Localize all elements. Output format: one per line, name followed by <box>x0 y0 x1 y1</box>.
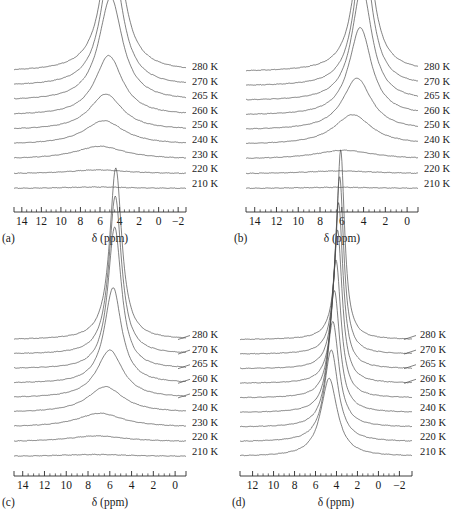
temperature-label: 280 K <box>192 61 218 72</box>
spectrum-trace <box>14 170 186 174</box>
x-tick-label: 4 <box>361 215 367 227</box>
spectrum-trace <box>246 78 418 129</box>
x-tick-label: 12 <box>39 479 51 491</box>
spectrum-trace <box>14 146 186 158</box>
spectrum-trace <box>14 187 186 189</box>
panel-tag: (a) <box>2 232 15 244</box>
panel-c: 14121086420δ (ppm)(c)280 K270 K265 K260 … <box>0 260 230 522</box>
spectrum-trace <box>246 0 418 85</box>
x-tick-label: 8 <box>78 215 84 227</box>
spectrum-trace <box>14 94 186 128</box>
temperature-label: 270 K <box>420 344 446 355</box>
spectrum-trace <box>240 291 412 413</box>
temperature-label: 250 K <box>192 387 218 398</box>
x-axis-title: δ (ppm) <box>318 496 354 508</box>
temperature-label: 265 K <box>192 358 218 369</box>
x-tick-label: 2 <box>136 215 142 227</box>
panel-tag: (d) <box>232 496 245 508</box>
temperature-label: 220 K <box>192 431 218 442</box>
x-tick-label: 10 <box>293 215 305 227</box>
temperature-label: 270 K <box>192 76 218 87</box>
x-tick-label: 2 <box>150 479 156 491</box>
x-tick-label: 10 <box>268 479 280 491</box>
temperature-label: 280 K <box>192 329 218 340</box>
spectrum-trace <box>246 0 418 71</box>
temperature-label: 210 K <box>420 446 446 457</box>
temperature-label: 265 K <box>420 358 446 369</box>
temperature-label: 270 K <box>424 76 450 87</box>
x-tick-label: 10 <box>61 479 73 491</box>
temperature-label: 265 K <box>424 90 450 101</box>
panel-tag: (b) <box>234 232 247 244</box>
temperature-label: 220 K <box>420 431 446 442</box>
x-tick-label: 12 <box>36 215 48 227</box>
temperature-label: 230 K <box>424 149 450 160</box>
panel-b: 14121086420δ (ppm)(b)280 K270 K265 K260 … <box>230 0 461 260</box>
x-tick-label: 8 <box>85 479 91 491</box>
x-axis-title: δ (ppm) <box>92 496 128 508</box>
x-tick-label: 12 <box>271 215 283 227</box>
x-tick-label: 6 <box>313 479 319 491</box>
x-tick-label: 14 <box>249 215 261 227</box>
temperature-label: 240 K <box>192 402 218 413</box>
temperature-label: 240 K <box>424 134 450 145</box>
spectrum-trace <box>14 350 186 397</box>
spectrum-trace <box>246 0 418 100</box>
temperature-label: 260 K <box>424 105 450 116</box>
x-tick-label: 12 <box>247 479 259 491</box>
temperature-label: 280 K <box>420 329 446 340</box>
spectrum-trace <box>14 0 186 84</box>
temperature-label: 210 K <box>192 446 218 457</box>
spectrum-trace <box>240 378 412 455</box>
temperature-label: 260 K <box>192 373 218 384</box>
x-tick-label: −2 <box>172 215 184 227</box>
temperature-label: 250 K <box>420 387 446 398</box>
x-tick-label: 0 <box>156 215 162 227</box>
temperature-label: 220 K <box>192 163 218 174</box>
x-tick-label: 0 <box>404 215 410 227</box>
x-tick-label: 0 <box>172 479 178 491</box>
x-tick-label: 4 <box>129 479 135 491</box>
spectrum-trace <box>14 55 186 113</box>
spectrum-trace <box>246 27 418 114</box>
temperature-label: 260 K <box>192 105 218 116</box>
spectrum-trace <box>14 413 186 426</box>
spectrum-trace <box>14 121 186 144</box>
temperature-label: 240 K <box>420 402 446 413</box>
spectrum-trace <box>14 454 186 456</box>
spectrum-trace <box>246 115 418 144</box>
x-tick-label: 4 <box>334 479 340 491</box>
x-tick-label: 4 <box>117 215 123 227</box>
temperature-label: 210 K <box>192 178 218 189</box>
temperature-label: 220 K <box>424 163 450 174</box>
spectrum-trace <box>14 387 186 412</box>
nmr-stacked-spectra-figure: 14121086420−2δ (ppm)(a)280 K270 K265 K26… <box>0 0 461 522</box>
x-tick-label: 6 <box>107 479 113 491</box>
temperature-label: 265 K <box>192 90 218 101</box>
temperature-label: 250 K <box>192 119 218 130</box>
x-tick-label: −2 <box>393 479 405 491</box>
x-tick-label: 14 <box>17 479 29 491</box>
temperature-label: 230 K <box>192 417 218 428</box>
temperature-label: 210 K <box>424 178 450 189</box>
x-tick-label: 8 <box>292 479 298 491</box>
x-tick-label: 2 <box>382 215 388 227</box>
temperature-label: 230 K <box>192 149 218 160</box>
panel-d: 121086420−2δ (ppm)(d)280 K270 K265 K260 … <box>230 260 461 522</box>
temperature-label: 270 K <box>192 344 218 355</box>
x-tick-label: 6 <box>339 215 345 227</box>
temperature-label: 240 K <box>192 134 218 145</box>
x-tick-label: 0 <box>376 479 382 491</box>
x-tick-label: 10 <box>55 215 67 227</box>
spectrum-trace <box>246 187 418 188</box>
x-tick-label: 6 <box>97 215 103 227</box>
x-axis-title: δ (ppm) <box>324 232 360 244</box>
x-tick-label: 14 <box>16 215 28 227</box>
panel-tag: (c) <box>2 496 15 508</box>
temperature-label: 280 K <box>424 61 450 72</box>
temperature-label: 250 K <box>424 119 450 130</box>
panel-a: 14121086420−2δ (ppm)(a)280 K270 K265 K26… <box>0 0 230 260</box>
temperature-label: 230 K <box>420 417 446 428</box>
x-tick-label: 8 <box>317 215 323 227</box>
spectrum-trace <box>14 436 186 442</box>
